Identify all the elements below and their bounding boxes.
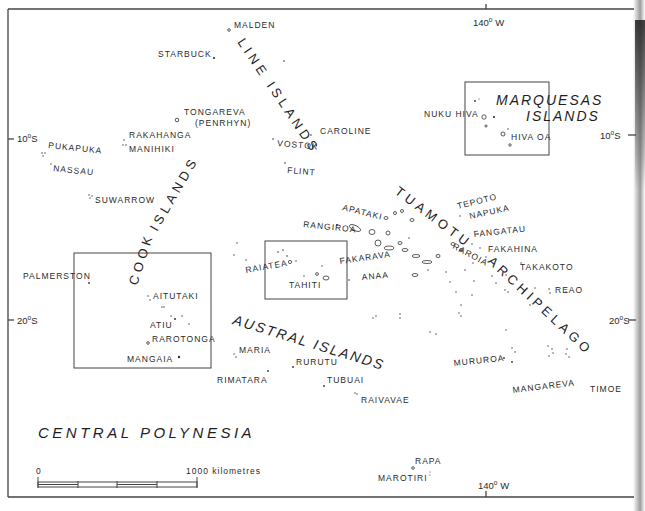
island-labels: MALDEN STARBUCK TONGAREVA (PENRHYN) CARO…: [23, 20, 622, 483]
inset-society: [265, 241, 347, 299]
label-mururoa: MURUROA: [453, 353, 505, 368]
lat-20s-right-label: 20oS: [609, 314, 630, 326]
label-aitutaki: AITUTAKI: [153, 291, 199, 301]
label-rimatara: RIMATARA: [217, 375, 268, 385]
label-tubuai: TUBUAI: [327, 375, 364, 385]
lat-20s-left-label: 20oS: [17, 314, 38, 326]
scale-start-label: 0: [36, 466, 42, 476]
label-raivavae: RAIVAVAE: [361, 395, 410, 405]
label-rarotonga: RAROTONGA: [152, 334, 216, 344]
group-tuamotu-label: TUAMOTU: [392, 183, 475, 251]
label-mangaia: MANGAIA: [127, 354, 173, 364]
label-malden: MALDEN: [234, 20, 275, 30]
central-polynesia-map: 140o W 140o W 10oS 10oS 20oS 20oS LINE I…: [0, 0, 645, 511]
label-rakahanga: RAKAHANGA: [129, 130, 191, 140]
lon-140w-bottom-label: 140o W: [478, 479, 509, 491]
label-reao: REAO: [555, 285, 583, 295]
label-atiu: ATIU: [150, 320, 173, 330]
label-tahiti: TAHITI: [289, 280, 321, 290]
label-fakahina: FAKAHINA: [488, 244, 538, 254]
label-maria: MARIA: [239, 345, 271, 355]
label-timoe: TIMOE: [590, 384, 622, 394]
label-penrhyn: (PENRHYN): [195, 118, 251, 128]
scan-edge-dark: [635, 20, 645, 190]
label-anaa: ANAA: [361, 270, 389, 282]
label-starbuck: STARBUCK: [158, 49, 212, 59]
label-nuku-hiva: NUKU HIVA: [424, 109, 479, 119]
label-caroline: CAROLINE: [320, 126, 371, 136]
label-rapa: RAPA: [415, 456, 442, 466]
label-mangareva: MANGAREVA: [512, 377, 575, 395]
group-marquesas-islands-label: ISLANDS: [526, 108, 600, 124]
label-suwarrow: SUWARROW: [95, 195, 155, 205]
island-group-labels: LINE ISLANDS COOK ISLANDS MARQUESAS ISLA…: [126, 35, 604, 373]
label-flint: FLINT: [287, 165, 316, 177]
label-manihiki: MANIHIKI: [129, 144, 175, 154]
group-cook-label: COOK: [126, 231, 157, 287]
label-rurutu: RURUTU: [296, 357, 338, 367]
label-raiatea: RAIATEA: [245, 258, 289, 275]
group-cook-islands-label: ISLANDS: [147, 154, 202, 234]
label-palmerston: PALMERSTON: [23, 271, 91, 281]
scale-bar: 0 1000 kilometres: [36, 466, 261, 488]
lon-140w-top-label: 140o W: [473, 16, 504, 28]
label-raroia: RAROIA: [451, 241, 490, 268]
label-apataki: APATAKI: [342, 202, 384, 222]
label-takakoto: TAKAKOTO: [520, 262, 574, 272]
label-marotiri: MAROTIRI: [378, 473, 428, 483]
lat-10s-left-label: 10oS: [17, 132, 38, 144]
scale-end-label: 1000 kilometres: [186, 466, 261, 476]
label-rangiroa: RANGIROA: [303, 219, 357, 235]
label-tongareva: TONGAREVA: [184, 107, 246, 117]
group-marquesas-label: MARQUESAS: [496, 92, 603, 108]
label-hiva-oa: HIVA OA: [511, 132, 551, 142]
lat-10s-right-label: 10oS: [600, 129, 621, 141]
label-nassau: NASSAU: [53, 163, 95, 177]
map-title: CENTRAL POLYNESIA: [38, 424, 255, 441]
label-pukapuka: PUKAPUKA: [48, 140, 103, 156]
label-fangatau: FANGATAU: [473, 224, 526, 239]
